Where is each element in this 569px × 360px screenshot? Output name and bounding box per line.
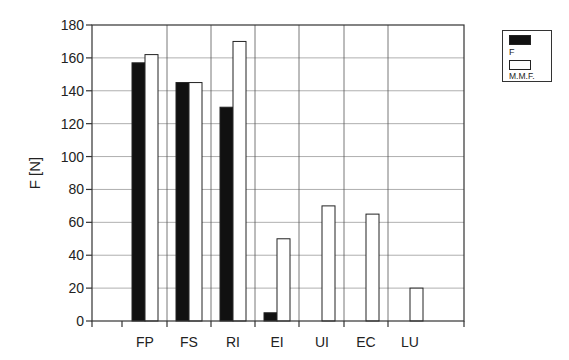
bar-f-ei	[264, 313, 277, 321]
bar-f-fp	[132, 63, 145, 321]
y-tick-label: 60	[68, 214, 84, 230]
x-axis-ticks: FPFSRIEIUIECLU	[122, 321, 419, 350]
x-tick-label: EI	[270, 334, 283, 350]
y-tick-label: 0	[76, 313, 84, 329]
y-tick-label: 20	[68, 280, 84, 296]
legend-swatch-f	[509, 35, 531, 45]
bar-mmf-lu	[410, 288, 423, 321]
y-axis-ticks: 020406080100120140160180	[61, 17, 92, 329]
bar-mmf-ei	[277, 239, 290, 321]
bar-mmf-fs	[189, 83, 202, 321]
x-tick-label: UI	[315, 334, 329, 350]
bar-mmf-ri	[233, 41, 246, 321]
legend-swatch-mmf	[509, 60, 531, 70]
y-tick-label: 80	[68, 181, 84, 197]
y-tick-label: 180	[61, 17, 85, 33]
y-tick-label: 120	[61, 116, 85, 132]
bar-mmf-fp	[145, 55, 158, 321]
bar-f-ri	[220, 107, 233, 321]
y-tick-label: 160	[61, 50, 85, 66]
x-tick-label: FS	[180, 334, 198, 350]
legend-label-f: F	[509, 47, 515, 57]
x-tick-label: FP	[136, 334, 154, 350]
bar-mmf-ui	[322, 206, 335, 321]
x-tick-label: EC	[356, 334, 375, 350]
y-tick-label: 40	[68, 247, 84, 263]
legend-label-mmf: M.M.F.	[509, 71, 535, 81]
y-tick-label: 140	[61, 83, 85, 99]
bars	[132, 41, 423, 321]
legend: F M.M.F.	[502, 30, 552, 82]
x-tick-label: LU	[401, 334, 419, 350]
bar-mmf-ec	[366, 214, 379, 321]
bar-f-fs	[176, 83, 189, 321]
bar-chart: 020406080100120140160180 FPFSRIEIUIECLU …	[0, 0, 569, 360]
x-tick-label: RI	[226, 334, 240, 350]
y-axis-label: F [N]	[26, 157, 43, 190]
y-tick-label: 100	[61, 149, 85, 165]
